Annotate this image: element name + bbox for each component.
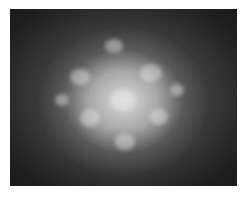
vignette [10,9,237,186]
photograph [10,9,237,186]
